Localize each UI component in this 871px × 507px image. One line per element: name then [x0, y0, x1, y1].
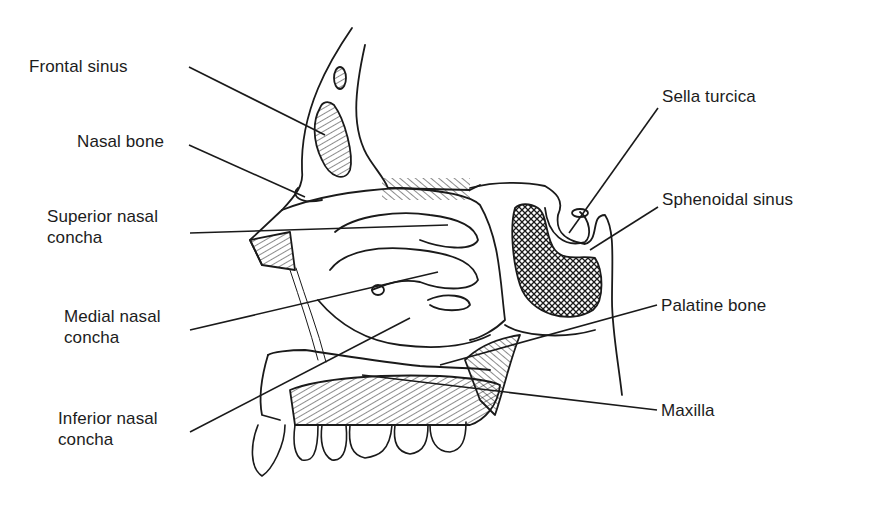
label-sphenoidal-sinus: Sphenoidal sinus [662, 189, 793, 210]
label-palatine-bone: Palatine bone [661, 295, 766, 316]
leader-nasal-bone [189, 145, 305, 197]
label-nasal-bone: Nasal bone [77, 131, 164, 152]
label-sella-turcica: Sella turcica [662, 86, 756, 107]
label-superior-nasal-concha: Superior nasal concha [47, 206, 158, 248]
superior-concha [335, 213, 478, 247]
frontal-sinus-region [315, 102, 351, 177]
label-frontal-sinus: Frontal sinus [29, 56, 128, 77]
nasal-cavity-outline [282, 188, 505, 340]
teeth [252, 422, 466, 476]
leader-frontal-sinus [189, 67, 325, 135]
label-inferior-nasal-concha: Inferior nasal concha [58, 408, 158, 450]
label-medial-nasal-concha: Medial nasal concha [64, 306, 161, 348]
inferior-concha [318, 300, 490, 347]
label-maxilla: Maxilla [661, 400, 715, 421]
maxilla-region [290, 376, 500, 425]
anatomy-diagram: Frontal sinus Nasal bone Superior nasal … [0, 0, 871, 507]
leader-sella-turcica [569, 108, 658, 233]
leader-superior-nasal-concha [190, 225, 448, 233]
medial-concha [330, 248, 478, 290]
leader-sphenoidal-sinus [590, 207, 658, 250]
